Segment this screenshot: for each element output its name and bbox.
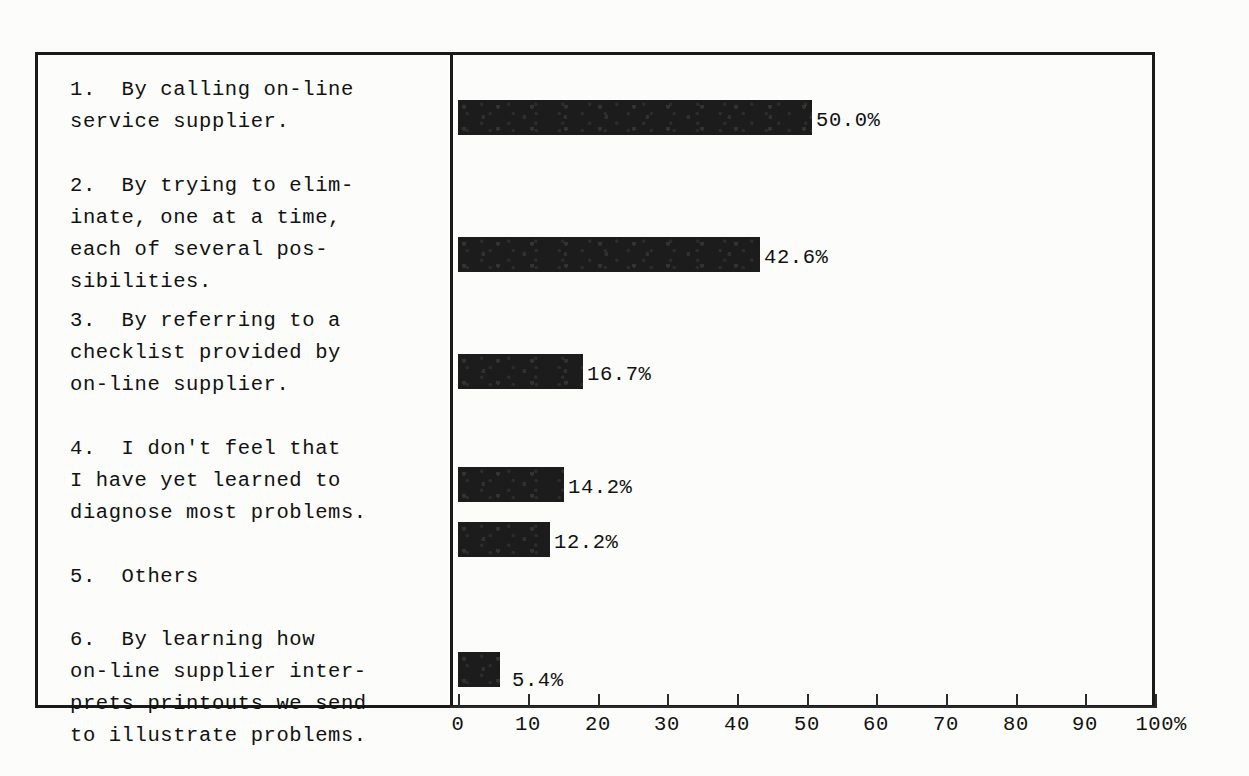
category-label-4: 4. I don't feel that I have yet learned … — [70, 433, 367, 529]
x-axis-tick-label-5: 50 — [794, 713, 820, 737]
x-axis-tick-30 — [667, 694, 669, 707]
x-axis-tick-20 — [598, 694, 600, 707]
x-axis-tick-label-0: 0 — [452, 713, 465, 737]
bar-value-label-4: 14.2% — [568, 477, 633, 499]
x-axis-tick-label-3: 30 — [654, 713, 680, 737]
x-axis-tick-label-10: 100% — [1135, 713, 1187, 737]
bar-1 — [458, 100, 812, 135]
category-label-6: 6. By learning how on-line supplier inte… — [70, 624, 367, 752]
x-axis-tick-40 — [737, 694, 739, 707]
x-axis-tick-label-7: 70 — [933, 713, 959, 737]
x-axis-tick-100pct — [1155, 694, 1157, 707]
x-axis-tick-label-1: 10 — [515, 713, 541, 737]
x-axis-tick-90 — [1085, 694, 1087, 707]
x-axis-tick-label-8: 80 — [1003, 713, 1029, 737]
x-axis-tick-60 — [876, 694, 878, 707]
bar-value-label-6: 5.4% — [512, 670, 564, 692]
x-axis-tick-0 — [458, 694, 460, 707]
bar-3 — [458, 354, 583, 389]
bar-value-label-5: 12.2% — [554, 532, 619, 554]
x-axis-tick-label-2: 20 — [585, 713, 611, 737]
x-axis-line — [450, 706, 1157, 708]
x-axis-tick-label-9: 90 — [1072, 713, 1098, 737]
x-axis-tick-label-6: 60 — [863, 713, 889, 737]
category-label-5: 5. Others — [70, 561, 199, 593]
bar-value-label-3: 16.7% — [587, 364, 652, 386]
category-label-2: 2. By trying to elim- inate, one at a ti… — [70, 170, 354, 298]
x-axis-tick-70 — [946, 694, 948, 707]
x-axis-tick-80 — [1016, 694, 1018, 707]
plot-area: 50.0%42.6%16.7%14.2%12.2%5.4% — [450, 52, 1155, 708]
x-axis-tick-50 — [807, 694, 809, 707]
bar-6 — [458, 652, 500, 687]
x-axis-tick-10 — [528, 694, 530, 707]
category-label-column: 1. By calling on-line service supplier.2… — [70, 52, 442, 708]
bar-4 — [458, 467, 564, 502]
category-label-3: 3. By referring to a checklist provided … — [70, 305, 341, 401]
category-label-1: 1. By calling on-line service supplier. — [70, 74, 354, 138]
bar-5 — [458, 522, 550, 557]
x-axis-tick-label-4: 40 — [724, 713, 750, 737]
bar-2 — [458, 237, 760, 272]
bar-value-label-2: 42.6% — [764, 247, 829, 269]
bar-value-label-1: 50.0% — [816, 110, 881, 132]
